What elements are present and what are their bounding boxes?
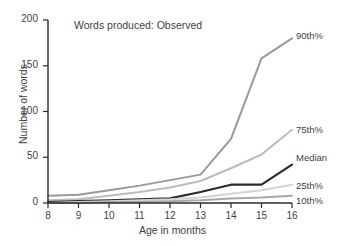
y-tick-label: 50 bbox=[4, 150, 38, 161]
series-label-90th: 90th% bbox=[296, 30, 323, 41]
x-tick-label: 10 bbox=[99, 210, 119, 221]
series-label-75th: 75th% bbox=[296, 124, 323, 135]
y-tick-label: 0 bbox=[4, 196, 38, 207]
series-label-10th: 10th% bbox=[296, 195, 323, 206]
series-line-median bbox=[48, 165, 292, 203]
x-tick-label: 16 bbox=[282, 210, 302, 221]
chart-container: Words produced: Observed Number of words… bbox=[0, 0, 345, 246]
series-label-25th: 25th% bbox=[296, 180, 323, 191]
x-tick-label: 8 bbox=[38, 210, 58, 221]
y-tick-label: 100 bbox=[4, 105, 38, 116]
series-line-90th bbox=[48, 38, 292, 195]
series-label-median: Median bbox=[296, 152, 327, 163]
series-line-75th bbox=[48, 130, 292, 200]
x-tick-label: 14 bbox=[221, 210, 241, 221]
series-lines bbox=[48, 38, 292, 203]
x-tick-label: 12 bbox=[160, 210, 180, 221]
x-tick-label: 13 bbox=[191, 210, 211, 221]
y-axis-ticks bbox=[43, 20, 48, 203]
chart-title: Words produced: Observed bbox=[74, 19, 202, 31]
x-tick-label: 15 bbox=[252, 210, 272, 221]
x-axis-title: Age in months bbox=[0, 224, 345, 236]
y-tick-label: 200 bbox=[4, 13, 38, 24]
x-tick-label: 11 bbox=[130, 210, 150, 221]
y-tick-label: 150 bbox=[4, 59, 38, 70]
x-tick-label: 9 bbox=[69, 210, 89, 221]
